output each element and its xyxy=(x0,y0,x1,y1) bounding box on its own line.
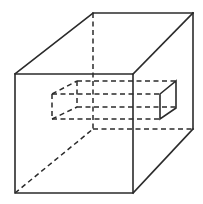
diagram-canvas xyxy=(0,0,203,204)
cube-front-face xyxy=(15,74,133,193)
cube-edge-bottom-right xyxy=(133,129,193,193)
prism-left-bottom-diagonal xyxy=(52,107,77,119)
prism-left-top-diagonal xyxy=(52,81,77,94)
cube-edge-top-right xyxy=(133,13,193,74)
prism-end-cap xyxy=(160,81,176,119)
prism-hidden-edges xyxy=(52,81,176,119)
cube-visible-edges xyxy=(15,13,193,193)
cube-hidden-bottom-left xyxy=(15,129,93,193)
cube-prism-diagram: Cube with rectangular prism passing thro… xyxy=(0,0,203,204)
prism-right-cap xyxy=(160,81,176,119)
cube-edge-top-left xyxy=(15,13,93,74)
